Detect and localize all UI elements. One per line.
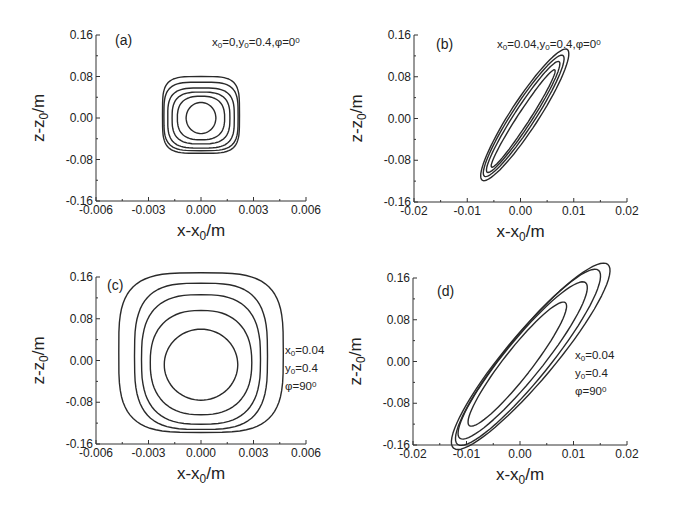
- axes-frame: [96, 277, 306, 444]
- x-tick-label: -0.01: [454, 204, 482, 218]
- contour-line: [483, 55, 564, 176]
- y-tick-label: 0.16: [388, 28, 412, 42]
- y-tick-label: 0.00: [70, 354, 94, 368]
- contour-line: [487, 61, 560, 172]
- parameter-annotation: x0=0.04: [285, 344, 325, 358]
- x-tick-label: -0.003: [131, 446, 165, 460]
- y-axis-title: z-z0/m: [347, 94, 369, 142]
- x-axis-title: x-x0/m: [177, 464, 225, 486]
- x-tick-label: -0.02: [399, 447, 427, 461]
- contour-line: [172, 92, 230, 144]
- y-axis-title: z-z0/m: [29, 336, 51, 384]
- parameter-annotation: φ=900: [575, 385, 607, 397]
- x-axis-title: x-x0/m: [177, 221, 225, 243]
- x-tick-label: 0.006: [291, 203, 321, 217]
- parameter-annotation: y0=0.4: [575, 367, 609, 381]
- axes-frame: [413, 278, 627, 445]
- panel-label: (d): [437, 283, 454, 299]
- x-tick-label: 0.006: [291, 446, 321, 460]
- y-tick-label: 0.16: [387, 271, 411, 285]
- x-tick-label: -0.02: [400, 204, 428, 218]
- y-tick-label: 0.00: [70, 111, 94, 125]
- svg-text:z-z0/m: z-z0/m: [347, 94, 369, 142]
- panel-a: 0.160.080.00-0.08-0.16-0.006-0.0030.0000…: [29, 28, 321, 243]
- y-axis-title: z-z0/m: [346, 337, 368, 385]
- y-tick-label: -0.08: [384, 153, 412, 167]
- parameter-annotation: y0=0.4: [285, 362, 319, 376]
- x-tick-label: -0.003: [131, 203, 165, 217]
- x-tick-label: 0.000: [186, 446, 216, 460]
- figure: 0.160.080.00-0.08-0.16-0.006-0.0030.0000…: [0, 0, 675, 523]
- x-tick-label: -0.006: [79, 446, 113, 460]
- contour-lines: [481, 49, 569, 181]
- y-tick-label: 0.16: [70, 270, 94, 284]
- contour-line: [491, 70, 555, 167]
- panel-c: 0.160.080.00-0.08-0.16-0.006-0.0030.0000…: [29, 270, 325, 486]
- panel-label: (b): [436, 36, 453, 52]
- contour-lines: [163, 77, 240, 154]
- y-tick-label: -0.08: [66, 395, 94, 409]
- svg-text:z-z0/m: z-z0/m: [29, 94, 51, 142]
- x-tick-label: 0.003: [238, 203, 268, 217]
- panel-label: (a): [115, 32, 132, 48]
- y-tick-label: 0.08: [388, 70, 412, 84]
- y-tick-label: 0.08: [387, 313, 411, 327]
- contour-line: [164, 329, 238, 400]
- x-tick-label: -0.006: [79, 203, 113, 217]
- contour-line: [142, 295, 261, 425]
- panel-b: 0.160.080.00-0.08-0.16-0.02-0.010.000.01…: [347, 28, 639, 244]
- contour-line: [135, 283, 268, 429]
- x-tick-label: 0.02: [615, 447, 639, 461]
- figure-canvas: 0.160.080.00-0.08-0.16-0.006-0.0030.0000…: [0, 0, 675, 523]
- x-tick-label: 0.000: [186, 203, 216, 217]
- parameter-annotation: x0=0,y0=0.4,φ=00: [212, 36, 300, 51]
- y-tick-label: 0.00: [388, 112, 412, 126]
- y-tick-label: 0.08: [70, 70, 94, 84]
- x-tick-label: 0.01: [562, 204, 586, 218]
- y-tick-label: -0.08: [383, 396, 411, 410]
- x-axis-title: x-x0/m: [496, 222, 544, 244]
- contour-line: [458, 282, 587, 439]
- x-axis-title: x-x0/m: [496, 465, 544, 487]
- panel-label: (c): [107, 277, 123, 293]
- contour-line: [186, 102, 216, 133]
- axes-frame: [96, 35, 306, 201]
- parameter-annotation: x0=0.04,y0=0.4,φ=00: [497, 38, 601, 53]
- y-tick-label: 0.00: [387, 355, 411, 369]
- x-tick-label: 0.003: [238, 446, 268, 460]
- parameter-annotation: x0=0.04: [575, 349, 615, 363]
- contour-line: [481, 49, 569, 181]
- x-tick-label: 0.02: [615, 204, 639, 218]
- svg-text:z-z0/m: z-z0/m: [346, 337, 368, 385]
- contour-line: [150, 310, 252, 414]
- x-tick-label: 0.00: [508, 447, 532, 461]
- svg-text:z-z0/m: z-z0/m: [29, 336, 51, 384]
- x-tick-label: 0.00: [509, 204, 533, 218]
- axes-frame: [414, 35, 627, 202]
- y-tick-label: 0.16: [70, 28, 94, 42]
- y-tick-label: 0.08: [70, 312, 94, 326]
- y-axis-title: z-z0/m: [29, 94, 51, 142]
- y-tick-label: -0.08: [66, 153, 94, 167]
- panel-d: 0.160.080.00-0.08-0.16-0.02-0.010.000.01…: [346, 263, 639, 486]
- x-tick-label: 0.01: [562, 447, 586, 461]
- contour-lines: [119, 273, 283, 433]
- parameter-annotation: φ=900: [285, 380, 317, 392]
